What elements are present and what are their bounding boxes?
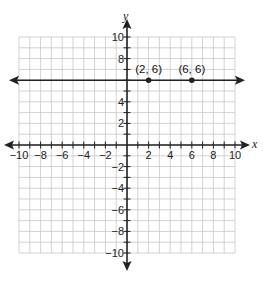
x-axis-label: x: [251, 137, 258, 151]
y-tick-label: 2: [118, 117, 124, 129]
x-tick-label: −6: [56, 149, 69, 161]
x-tick-label: −10: [10, 149, 29, 161]
x-tick-label: 8: [210, 149, 216, 161]
y-axis-label: y: [122, 9, 129, 23]
x-tick-label: −2: [99, 149, 112, 161]
y-tick-label: −6: [111, 204, 124, 216]
x-tick-label: 4: [167, 149, 173, 161]
data-point: [146, 77, 152, 83]
coordinate-plane: −10−8−6−4−224681010842−2−4−6−8−10 (2, 6)…: [0, 0, 263, 285]
y-tick-label: −2: [111, 161, 124, 173]
x-tick-label: 10: [229, 149, 241, 161]
y-tick-label: −8: [111, 225, 124, 237]
x-tick-label: −8: [34, 149, 47, 161]
y-tick-label: 8: [118, 53, 124, 65]
x-tick-label: −4: [78, 149, 91, 161]
y-tick-label: 4: [118, 96, 124, 108]
y-tick-label: −10: [105, 247, 124, 259]
point-label: (2, 6): [135, 63, 162, 75]
y-tick-label: −4: [111, 182, 124, 194]
data-point: [189, 77, 195, 83]
y-tick-label: 10: [112, 31, 124, 43]
x-tick-label: 6: [189, 149, 195, 161]
x-tick-label: 2: [146, 149, 152, 161]
point-label: (6, 6): [178, 63, 205, 75]
